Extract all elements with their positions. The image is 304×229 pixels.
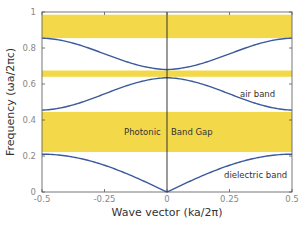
y-tick-label: 0.4	[22, 115, 36, 125]
band-structure-chart: -0.5-0.2500.250.500.20.40.60.81 air band…	[0, 0, 304, 229]
x-tick-label: 0.5	[285, 194, 299, 204]
x-tick-label: 0.25	[220, 194, 239, 204]
annotation-photonic: Photonic	[124, 127, 161, 137]
y-tick-label: 0.8	[22, 43, 36, 53]
x-tick-label: -0.25	[94, 194, 116, 204]
y-tick-label: 0	[31, 187, 36, 197]
x-tick-label: -0.5	[34, 194, 51, 204]
annotation-band-gap: Band Gap	[171, 127, 213, 137]
x-tick-label: 0	[164, 194, 169, 204]
y-tick-label: 1	[31, 7, 36, 17]
y-tick-label: 0.2	[22, 151, 36, 161]
y-tick-label: 0.6	[22, 79, 36, 89]
annotation-dielectric-band: dielectric band	[224, 170, 287, 180]
x-axis-title: Wave vector (ka/2π)	[112, 206, 223, 219]
y-axis-title: Frequency (ωa/2πc)	[4, 48, 17, 156]
annotation-air-band: air band	[240, 89, 275, 99]
